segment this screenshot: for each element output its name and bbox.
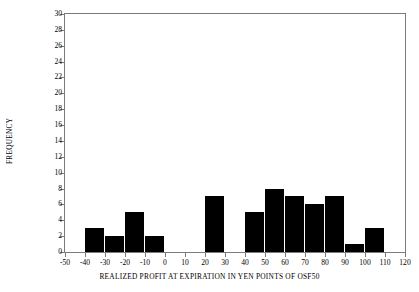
x-tick-mark <box>285 252 286 257</box>
x-axis-title: REALIZED PROFIT AT EXPIRATION IN YEN POI… <box>0 272 419 281</box>
x-tick-label: -40 <box>80 259 90 267</box>
y-tick-label: 28 <box>54 26 62 34</box>
y-tick-label: 16 <box>54 121 62 129</box>
x-tick-label: 70 <box>301 259 309 267</box>
y-tick-label: 18 <box>54 105 62 113</box>
x-tick-label: -50 <box>60 259 70 267</box>
histogram-bar <box>125 212 144 252</box>
y-tick-label: 10 <box>54 169 62 177</box>
x-tick-mark <box>205 252 206 257</box>
x-tick-mark <box>165 252 166 257</box>
x-tick-label: 30 <box>221 259 229 267</box>
y-tick-label: 30 <box>54 10 62 18</box>
histogram-bar <box>85 228 104 252</box>
y-tick-label: 6 <box>58 201 62 209</box>
histogram-bar <box>145 236 164 252</box>
x-tick-label: 80 <box>321 259 329 267</box>
x-tick-mark <box>405 252 406 257</box>
x-tick-label: 120 <box>399 259 410 267</box>
x-tick-label: -20 <box>120 259 130 267</box>
y-axis-title: FREQUENCY <box>2 96 18 186</box>
x-tick-mark <box>105 252 106 257</box>
x-tick-mark <box>245 252 246 257</box>
y-tick-label: 24 <box>54 58 62 66</box>
x-tick-mark <box>305 252 306 257</box>
y-tick-label: 26 <box>54 42 62 50</box>
x-tick-mark <box>85 252 86 257</box>
histogram-bar <box>305 204 324 252</box>
x-tick-mark <box>265 252 266 257</box>
x-tick-mark <box>385 252 386 257</box>
y-tick-label: 0 <box>58 248 62 256</box>
y-tick-label: 20 <box>54 90 62 98</box>
x-tick-label: 40 <box>241 259 249 267</box>
histogram-bar <box>365 228 384 252</box>
x-tick-mark <box>185 252 186 257</box>
x-tick-label: 60 <box>281 259 289 267</box>
plot-area: 024681012141618202224262830-50-40-30-20-… <box>64 13 406 253</box>
x-tick-label: -10 <box>140 259 150 267</box>
histogram-bar <box>245 212 264 252</box>
y-tick-label: 22 <box>54 74 62 82</box>
histogram-bar <box>345 244 364 252</box>
histogram-bar <box>265 189 284 252</box>
y-tick-label: 8 <box>58 185 62 193</box>
x-tick-label: 90 <box>341 259 349 267</box>
x-tick-label: 10 <box>181 259 189 267</box>
x-tick-mark <box>65 252 66 257</box>
y-tick-label: 4 <box>58 216 62 224</box>
histogram-figure: FREQUENCY 024681012141618202224262830-50… <box>0 0 419 292</box>
x-tick-label: 50 <box>261 259 269 267</box>
histogram-bar <box>105 236 124 252</box>
histogram-bar <box>325 196 344 252</box>
x-tick-label: -30 <box>100 259 110 267</box>
x-tick-mark <box>345 252 346 257</box>
x-tick-mark <box>365 252 366 257</box>
x-tick-label: 100 <box>359 259 370 267</box>
x-tick-mark <box>325 252 326 257</box>
bars-layer <box>65 14 405 252</box>
x-tick-label: 0 <box>163 259 167 267</box>
x-tick-label: 20 <box>201 259 209 267</box>
y-tick-label: 2 <box>58 232 62 240</box>
x-tick-mark <box>225 252 226 257</box>
x-tick-mark <box>125 252 126 257</box>
y-tick-label: 12 <box>54 153 62 161</box>
y-tick-label: 14 <box>54 137 62 145</box>
x-tick-label: 110 <box>379 259 390 267</box>
x-tick-mark <box>145 252 146 257</box>
histogram-bar <box>205 196 224 252</box>
histogram-bar <box>285 196 304 252</box>
